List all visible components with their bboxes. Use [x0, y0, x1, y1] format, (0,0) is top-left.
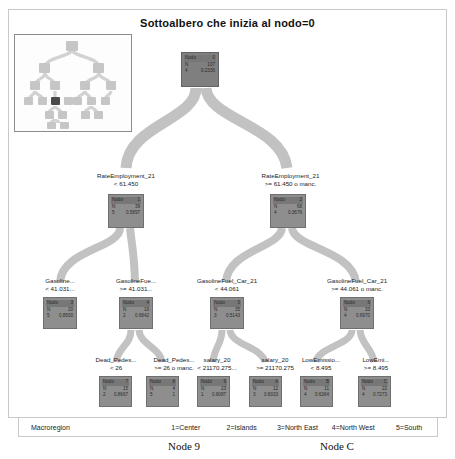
node-id: 0 — [212, 55, 216, 62]
tree-node-7[interactable]: Nodo 7 N 15 2 0.8667 — [99, 376, 132, 407]
node-header-row: Nodo 1 — [111, 197, 141, 204]
tree-node-8[interactable]: Nodo 8 N 4 5 1 — [146, 376, 179, 407]
node-prob-row: 5 0.8500 — [46, 313, 74, 320]
node-n-value: 11 — [324, 386, 330, 393]
page-title: Sottoalbero che inizia al nodo=0 — [0, 17, 455, 29]
node-header-row: Nodo 9 — [200, 379, 227, 386]
tree-node-1[interactable]: Nodo 1 N 39 5 0.5897 — [108, 194, 144, 228]
node-n-value: 20 — [68, 307, 74, 314]
node-label: Nodo — [343, 300, 355, 307]
node-n-value: 19 — [144, 307, 150, 314]
node-category: 4 — [184, 68, 188, 75]
tree-node-C[interactable]: Nodo C N 22 4 0.7273 — [358, 376, 391, 407]
node-n-value: 12 — [273, 386, 279, 393]
node-header-row: Nodo 0 — [184, 55, 216, 62]
legend-item-5: 5=South — [381, 424, 437, 431]
node-n-value: 22 — [382, 386, 388, 393]
node-n-label: N — [252, 386, 256, 393]
tree-node-9[interactable]: Nodo 9 N 23 1 0.6087 — [197, 376, 230, 407]
node-category: 5 — [46, 313, 50, 320]
tree-node-root[interactable]: Nodo 0 N 107 4 0.2336 — [181, 52, 219, 87]
legend-bar: Macroregion 1=Center 2=Islands 3=North E… — [18, 417, 438, 437]
node-n-value: 35 — [235, 307, 241, 314]
node-count-row: N 12 — [252, 386, 279, 393]
node-id: A — [275, 379, 279, 386]
node-prob-row: 3 0.5143 — [213, 313, 241, 320]
node-label: Nodo — [111, 197, 123, 204]
split-label-2: RateEmployment_21 >= 61.450 o manc. — [228, 172, 353, 188]
node-category: 4 — [303, 392, 307, 399]
node-count-row: N 22 — [361, 386, 388, 393]
node-probability: 0.6842 — [135, 313, 150, 320]
tree-diagram-page: Sottoalbero che inizia al nodo=0 — [0, 0, 455, 459]
tree-node-A[interactable]: Nodo A N 12 3 0.8333 — [249, 376, 282, 407]
split-label-6: GasolineFuel_Car_21 >= 44.061 o manc. — [312, 277, 402, 293]
node-probability: 0.5143 — [226, 313, 241, 320]
node-prob-row: 5 0.5897 — [111, 210, 141, 217]
node-probability: 0.3676 — [288, 210, 303, 217]
tree-node-4[interactable]: Nodo 4 N 19 2 0.6842 — [119, 297, 153, 329]
node-label: Nodo — [273, 197, 285, 204]
thumbnail-selected-node — [51, 97, 60, 105]
node-id: 8 — [172, 379, 176, 386]
split-variable: GasolineFuel_Car_21 — [327, 277, 387, 284]
caption-node-c: Node C — [320, 440, 354, 452]
node-category: 3 — [252, 392, 256, 399]
node-n-value: 4 — [172, 386, 176, 393]
node-n-label: N — [361, 386, 365, 393]
node-probability: 0.6970 — [356, 313, 371, 320]
node-n-label: N — [102, 386, 106, 393]
node-n-label: N — [213, 307, 217, 314]
node-label: Nodo — [200, 379, 212, 386]
node-category: 5 — [111, 210, 115, 217]
node-n-label: N — [111, 204, 115, 211]
node-count-row: N 19 — [122, 307, 150, 314]
tree-node-6[interactable]: Nodo 6 N 33 4 0.6970 — [340, 297, 374, 329]
split-label-3: Gasoline... < 41.031... — [22, 277, 98, 293]
node-probability: 0.8500 — [59, 313, 74, 320]
node-label: Nodo — [303, 379, 315, 386]
tree-node-B[interactable]: Nodo B N 11 4 0.6364 — [300, 376, 333, 407]
split-variable: LowEmi... — [362, 356, 389, 363]
node-category: 3 — [213, 313, 217, 320]
node-count-row: N 4 — [149, 386, 176, 393]
tree-node-5[interactable]: Nodo 5 N 35 3 0.5143 — [210, 297, 244, 329]
split-condition: < 44.061 — [182, 285, 272, 293]
node-id: 4 — [146, 300, 150, 307]
tree-node-2[interactable]: Nodo 2 N 68 4 0.3676 — [270, 194, 306, 228]
node-count-row: N 39 — [111, 204, 141, 211]
node-header-row: Nodo B — [303, 379, 330, 386]
node-probability: 0.2336 — [201, 68, 216, 75]
node-label: Nodo — [122, 300, 134, 307]
legend-item-4: 4=North West — [325, 424, 381, 431]
node-label: Nodo — [102, 379, 114, 386]
node-id: B — [326, 379, 330, 386]
node-count-row: N 68 — [273, 204, 303, 211]
node-label: Nodo — [46, 300, 58, 307]
split-variable: RateEmployment_21 — [262, 172, 320, 179]
node-prob-row: 3 0.8333 — [252, 392, 279, 399]
node-n-label: N — [303, 386, 307, 393]
thumbnail-tree-graphic — [15, 35, 129, 129]
node-n-value: 107 — [207, 62, 216, 69]
legend-item-1: 1=Center — [158, 424, 214, 431]
node-count-row: N 107 — [184, 62, 216, 69]
node-label: Nodo — [184, 55, 196, 62]
node-count-row: N 20 — [46, 307, 74, 314]
node-header-row: Nodo 8 — [149, 379, 176, 386]
node-label: Nodo — [149, 379, 161, 386]
node-count-row: N 35 — [213, 307, 241, 314]
tree-overview-thumbnail[interactable] — [14, 34, 132, 132]
split-condition: >= 8.495 — [342, 364, 410, 372]
node-id: 5 — [237, 300, 241, 307]
node-prob-row: 2 0.8667 — [102, 392, 129, 399]
tree-node-3[interactable]: Nodo 3 N 20 5 0.8500 — [43, 297, 77, 329]
node-category: 4 — [343, 313, 347, 320]
split-label-5: GasolineFuel_Car_21 < 44.061 — [182, 277, 272, 293]
legend-title: Macroregion — [19, 424, 158, 431]
node-header-row: Nodo 2 — [273, 197, 303, 204]
node-prob-row: 4 0.2336 — [184, 68, 216, 75]
caption-node-9: Node 9 — [168, 440, 200, 452]
node-n-label: N — [122, 307, 126, 314]
node-n-value: 23 — [221, 386, 227, 393]
